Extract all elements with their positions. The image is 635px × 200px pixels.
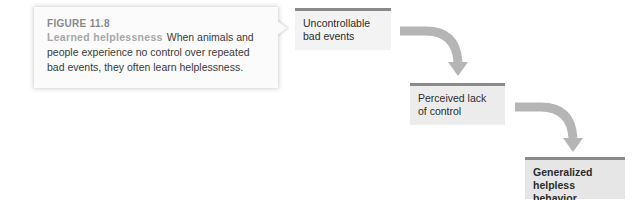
- callout-pointer: [276, 20, 287, 36]
- figure-caption: Learned helplessnessWhen animals and peo…: [47, 30, 268, 75]
- step-generalized-helpless-behavior: Generalized helpless behavior: [525, 157, 625, 199]
- step-perceived-lack-of-control: Perceived lack of control: [410, 83, 505, 125]
- figure-caption-box: FIGURE 11.8 Learned helplessnessWhen ani…: [34, 7, 278, 88]
- curved-arrow-icon: [398, 22, 478, 82]
- figure-title: Learned helplessness: [47, 31, 163, 43]
- curved-arrow-icon: [513, 98, 593, 158]
- figure-number: FIGURE 11.8: [47, 17, 268, 30]
- step-uncontrollable-bad-events: Uncontrollable bad events: [295, 8, 391, 50]
